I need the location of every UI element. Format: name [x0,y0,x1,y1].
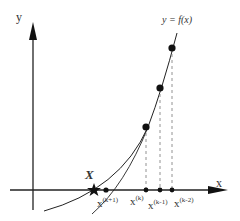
axis-point-k-1 [158,188,163,193]
curve-point-k [142,123,149,130]
axis-point-k-2 [170,188,175,193]
y-axis-arrow-icon [29,22,37,40]
y-axis-label: y [16,10,22,25]
diagram-canvas [0,0,240,221]
axis-point-k [144,188,149,193]
curve-label: y = f(x) [162,14,192,25]
iterate-label-k-2: x(k-2) [174,196,194,209]
iterate-label-k-1: x(k-1) [148,198,168,211]
x-axis-label: x [216,176,222,191]
function-curve [44,33,177,211]
iterate-label-k: x(k) [130,194,144,207]
iterate-label-k+1: x(k+1) [97,196,118,209]
root-star-icon [87,183,101,196]
axis-point-k+1 [103,187,108,192]
curve-point-k-2 [168,44,175,51]
root-label: X [85,167,94,183]
curve-point-k-1 [156,84,163,91]
